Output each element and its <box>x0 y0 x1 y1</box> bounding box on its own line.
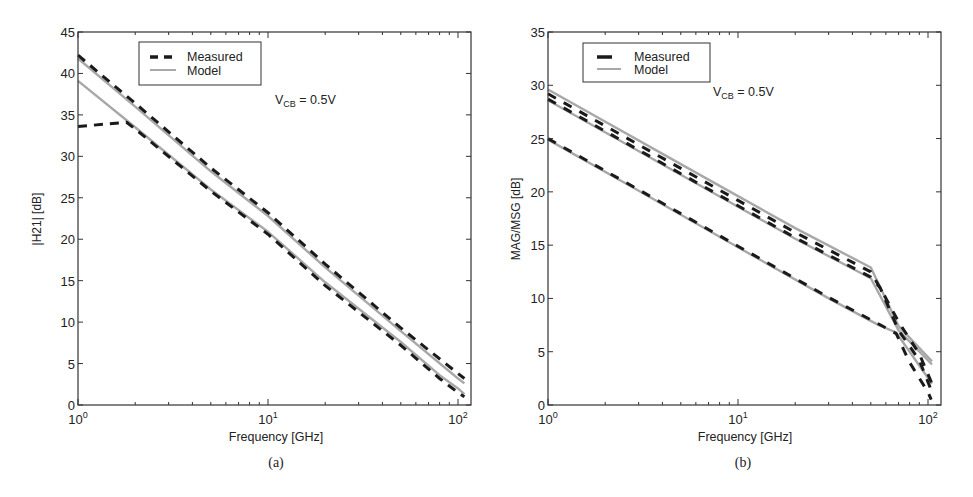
measured-curve <box>78 122 464 396</box>
y-tick-label: 30 <box>61 149 75 164</box>
y-axis-label-a: |H21| [dB] <box>30 193 44 246</box>
measured-curve <box>548 94 932 384</box>
caption-a: (a) <box>268 455 284 471</box>
y-tick-label: 30 <box>531 78 545 93</box>
y-tick-label: 0 <box>538 398 545 413</box>
model-curve <box>78 59 464 384</box>
x-axis-label-a: Frequency [GHz] <box>229 430 323 444</box>
plot-area-b <box>548 90 932 400</box>
x-tick-label: 102 <box>918 410 937 427</box>
y-tick-label: 0 <box>68 398 75 413</box>
model-curve <box>548 90 932 362</box>
y-tick-label: 35 <box>61 108 75 123</box>
y-tick-label: 20 <box>61 232 75 247</box>
y-tick-label: 25 <box>531 132 545 147</box>
legend-a: Measured Model <box>139 42 261 85</box>
y-tick-label: 45 <box>61 25 75 40</box>
model-curve <box>78 81 464 394</box>
measured-curve <box>78 55 464 378</box>
y-tick-label: 15 <box>531 238 545 253</box>
x-tick-label: 101 <box>728 410 747 427</box>
figure: 051015202530354045100101102 |H21| [dB] F… <box>0 0 973 497</box>
panel-b: 05101520253035100101102 MAG/MSG [dB] Fre… <box>509 25 941 471</box>
y-tick-label: 10 <box>61 315 75 330</box>
y-tick-label: 40 <box>61 66 75 81</box>
panel-a: 051015202530354045100101102 |H21| [dB] F… <box>30 25 471 471</box>
y-tick-label: 5 <box>538 345 545 360</box>
y-tick-label: 5 <box>68 357 75 372</box>
legend-measured-label-a: Measured <box>187 50 243 64</box>
x-tick-label: 100 <box>68 410 87 427</box>
plot-area-a <box>78 55 464 397</box>
caption-b: (b) <box>735 455 752 471</box>
y-tick-label: 15 <box>61 274 75 289</box>
axes-frame-a <box>78 32 471 405</box>
x-axis-label-b: Frequency [GHz] <box>698 430 792 444</box>
y-axis-label-b: MAG/MSG [dB] <box>509 178 523 261</box>
y-tick-label: 20 <box>531 185 545 200</box>
y-tick-label: 35 <box>531 25 545 40</box>
model-curve <box>548 140 932 384</box>
legend-measured-label-b: Measured <box>634 50 690 64</box>
x-tick-label: 100 <box>538 410 557 427</box>
y-tick-label: 25 <box>61 191 75 206</box>
ticks-a: 051015202530354045100101102 <box>61 25 471 427</box>
measured-curve <box>548 139 931 400</box>
model-curve <box>548 100 932 364</box>
bias-annotation-b: VCB = 0.5V <box>713 85 774 101</box>
legend-b: Measured Model <box>583 43 710 82</box>
legend-model-label-b: Model <box>634 63 668 77</box>
legend-model-label-a: Model <box>187 64 221 78</box>
y-tick-label: 10 <box>531 291 545 306</box>
x-tick-label: 102 <box>448 410 467 427</box>
x-tick-label: 101 <box>258 410 277 427</box>
bias-annotation-a: VCB = 0.5V <box>275 93 336 109</box>
